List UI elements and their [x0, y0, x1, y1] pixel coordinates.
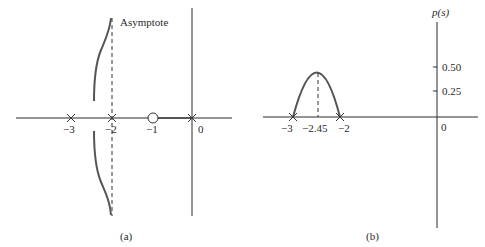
caption-b: (b)	[366, 230, 379, 243]
x-tick-label-b: −2	[338, 122, 350, 134]
x-tick-label-b: −2.45	[302, 122, 328, 134]
y-axis-label: p(s)	[431, 6, 449, 19]
tick-label-a: −1	[146, 123, 158, 135]
tick-label-a: 0	[198, 123, 204, 135]
y-tick-label: 0.50	[442, 61, 462, 73]
asymptote-label: Asymptote	[120, 16, 168, 28]
caption-a: (a)	[120, 230, 133, 243]
tick-label-a: −3	[63, 123, 75, 135]
panel-b: p(s) 0.50 0.25 0 −3 −2.45 −2 (b)	[263, 6, 478, 243]
panel-a: Asymptote −3 −2 −1 0 (a)	[16, 8, 232, 243]
y-tick-label: 0.25	[442, 85, 462, 97]
tick-label-a: −2	[105, 123, 117, 135]
x-tick-label-b: −3	[281, 122, 293, 134]
figure-canvas: Asymptote −3 −2 −1 0 (a) p(s) 0.50 0.25	[0, 0, 485, 247]
locus-branch-lower	[94, 131, 111, 215]
p-of-s-curve	[293, 73, 340, 118]
origin-label: 0	[441, 121, 447, 133]
zero-marker-icon	[148, 113, 158, 123]
locus-branch-upper	[94, 18, 111, 101]
